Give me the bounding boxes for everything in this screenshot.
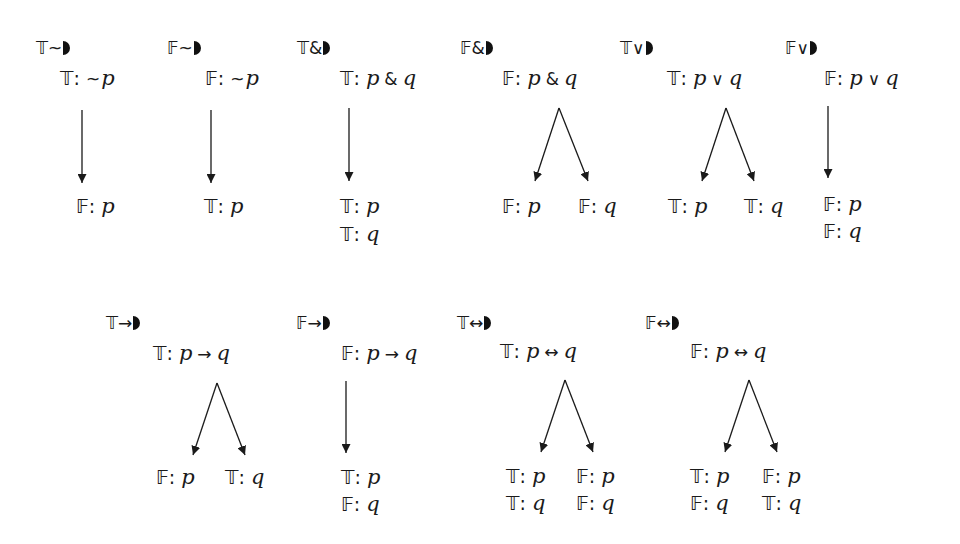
premise-formula: 𝔽: ~p xyxy=(205,68,259,89)
premise-sign: 𝔽 xyxy=(502,67,515,89)
variable: q xyxy=(366,222,379,246)
colon: : xyxy=(519,492,531,514)
connective-symbol: & xyxy=(379,69,402,89)
premise-sign: 𝔽 xyxy=(824,67,837,89)
colon: : xyxy=(703,340,715,362)
premise-formula: 𝔽: p→q xyxy=(341,343,417,364)
colon: : xyxy=(218,67,230,89)
rule-connective: & xyxy=(471,38,484,58)
premise-sign: 𝔽 xyxy=(690,340,703,362)
connective-symbol: ~ xyxy=(230,69,245,89)
left-branch-arrow xyxy=(702,108,726,181)
rule-sign: 𝔽 xyxy=(460,38,471,58)
colon: : xyxy=(353,195,365,217)
conclusion-formula: 𝕋: p xyxy=(340,196,379,217)
variable: q xyxy=(532,491,545,515)
variable: p xyxy=(849,66,862,90)
conclusion-formula: 𝔽: p xyxy=(762,466,801,487)
half-disc-icon xyxy=(484,316,491,330)
rule-sign: 𝕋 xyxy=(620,38,632,58)
variable: q xyxy=(217,341,230,365)
conclusion-formula: 𝔽: q xyxy=(690,493,729,514)
rule-sign: 𝕋 xyxy=(297,38,309,58)
conclusion-sign: 𝔽 xyxy=(823,193,836,215)
conclusion-formula: 𝔽: q xyxy=(823,221,862,242)
premise-sign: 𝕋 xyxy=(60,67,73,89)
variable: p xyxy=(526,339,539,363)
half-disc-icon xyxy=(323,316,330,330)
conclusion-sign: 𝔽 xyxy=(156,466,169,488)
conclusion-formula: 𝕋: q xyxy=(340,224,379,245)
colon: : xyxy=(353,223,365,245)
premise-sign: 𝕋 xyxy=(667,67,680,89)
variable: p xyxy=(532,464,545,488)
half-disc-icon xyxy=(63,41,70,55)
variable: p xyxy=(366,194,379,218)
connective-symbol: ↔ xyxy=(539,342,563,362)
colon: : xyxy=(73,67,85,89)
colon: : xyxy=(354,342,366,364)
variable: p xyxy=(787,464,800,488)
connective-symbol: ∨ xyxy=(863,69,885,89)
rule-connective: → xyxy=(307,313,321,333)
rule-sign: 𝕋 xyxy=(457,313,469,333)
colon: : xyxy=(775,492,787,514)
colon: : xyxy=(591,195,603,217)
variable: p xyxy=(367,465,380,489)
conclusion-sign: 𝔽 xyxy=(576,465,589,487)
conclusion-sign: 𝕋 xyxy=(506,465,519,487)
colon: : xyxy=(757,195,769,217)
rule-name-label: 𝕋↔ xyxy=(457,315,491,332)
colon: : xyxy=(837,67,849,89)
conclusion-sign: 𝕋 xyxy=(744,195,757,217)
variable: p xyxy=(101,66,114,90)
rule-sign: 𝔽 xyxy=(785,38,796,58)
rule-sign: 𝔽 xyxy=(167,38,178,58)
conclusion-formula: 𝕋: q xyxy=(744,196,783,217)
colon: : xyxy=(354,493,366,515)
conclusion-sign: 𝔽 xyxy=(76,195,89,217)
colon: : xyxy=(354,466,366,488)
premise-formula: 𝕋: p→q xyxy=(153,343,230,364)
rule-name-label: 𝔽~ xyxy=(167,40,201,57)
half-disc-icon xyxy=(133,316,140,330)
rule-name-label: 𝕋& xyxy=(297,40,330,57)
colon: : xyxy=(238,466,250,488)
variable: p xyxy=(366,66,379,90)
variable: q xyxy=(770,194,783,218)
conclusion-formula: 𝕋: p xyxy=(668,196,707,217)
colon: : xyxy=(775,465,787,487)
half-disc-icon xyxy=(323,41,330,55)
conclusion-formula: 𝕋: q xyxy=(506,493,545,514)
premise-formula: 𝔽: p↔q xyxy=(690,341,766,362)
rule-connective: ~ xyxy=(178,38,192,58)
premise-formula: 𝔽: p&q xyxy=(502,68,577,89)
conclusion-sign: 𝔽 xyxy=(690,492,703,514)
half-disc-icon xyxy=(646,41,653,55)
conclusion-sign: 𝔽 xyxy=(502,195,515,217)
conclusion-sign: 𝕋 xyxy=(341,466,354,488)
conclusion-sign: 𝔽 xyxy=(576,492,589,514)
left-branch-arrow xyxy=(725,380,749,452)
conclusion-formula: 𝔽: p xyxy=(576,466,615,487)
rule-connective: ↔ xyxy=(469,313,483,333)
variable: p xyxy=(715,339,728,363)
rule-connective: & xyxy=(309,38,322,58)
conclusion-formula: 𝔽: q xyxy=(341,494,380,515)
colon: : xyxy=(166,342,178,364)
conclusion-formula: 𝔽: p xyxy=(76,196,115,217)
premise-formula: 𝕋: ~p xyxy=(60,68,115,89)
connective-symbol: ↔ xyxy=(729,342,753,362)
variable: q xyxy=(366,492,379,516)
conclusion-formula: 𝕋: q xyxy=(225,467,264,488)
rule-sign: 𝕋 xyxy=(106,313,118,333)
conclusion-sign: 𝔽 xyxy=(578,195,591,217)
rule-connective: ↔ xyxy=(656,313,670,333)
variable: p xyxy=(101,194,114,218)
variable: p xyxy=(366,341,379,365)
half-disc-icon xyxy=(194,41,201,55)
premise-sign: 𝕋 xyxy=(340,67,353,89)
arrow-layer xyxy=(0,0,960,544)
conclusion-sign: 𝕋 xyxy=(340,195,353,217)
variable: p xyxy=(716,464,729,488)
